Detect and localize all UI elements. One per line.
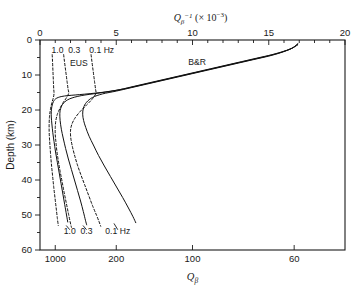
depth-tick-10: 10 [21,69,32,80]
annotation-br-0.1-bottom: 0.1 Hz [105,226,130,236]
depth-tick-50: 50 [21,209,32,220]
bottom-tick-100: 100 [185,253,201,264]
curve-eus-0.3hz [55,55,71,228]
y-axis-title: Depth (km) [5,120,16,169]
annotation-eus-label: EUS [70,58,88,68]
depth-tick-20: 20 [21,104,32,115]
curve-eus-0.1hz [70,55,100,227]
bottom-tick-200: 200 [108,253,124,264]
attenuation-depth-figure: 05101520Qβ−1 (× 10−3)100020010060Qβ01020… [0,0,356,291]
depth-tick-0: 0 [27,34,32,45]
depth-tick-40: 40 [21,174,32,185]
top-tick-5: 5 [114,27,119,38]
bottom-axis-title: Qβ [187,271,199,285]
top-tick-15: 15 [263,27,274,38]
svg-text:Qβ: Qβ [187,271,199,285]
top-axis-title: Qβ−1 (× 10−3) [174,11,228,26]
bottom-tick-60: 60 [289,253,300,264]
annotation-br-label: B&R [188,57,206,67]
annotation-br-1.0-bottom: 1.0 [64,226,76,236]
curve-bandr-0.3hz [60,44,298,225]
annotation-eus-0.1-top: 0.1 Hz [89,45,114,55]
svg-text:Depth (km): Depth (km) [5,120,16,169]
plot-frame [40,40,345,250]
annotation-eus-0.3-top: 0.3 [68,45,80,55]
axes-layer [35,40,345,250]
quality-factor-depth-plot: 05101520Qβ−1 (× 10−3)100020010060Qβ01020… [0,0,356,291]
curves-layer [49,44,298,230]
curve-bandr-0.1hz [83,45,298,223]
annotation-br-0.3-bottom: 0.3 [81,226,93,236]
depth-tick-30: 30 [21,139,32,150]
depth-tick-60: 60 [21,244,32,255]
top-tick-20: 20 [340,27,351,38]
bottom-tick-1000: 1000 [45,253,66,264]
svg-text:Qβ−1 (× 10−3): Qβ−1 (× 10−3) [174,11,228,26]
top-tick-10: 10 [187,27,198,38]
top-tick-0: 0 [37,27,42,38]
annotation-eus-1.0-top: 1.0 [52,45,64,55]
